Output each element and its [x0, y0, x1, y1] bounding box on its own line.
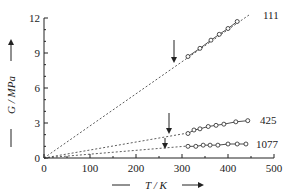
data-point — [235, 20, 239, 24]
data-point — [226, 27, 230, 31]
data-point — [216, 143, 220, 147]
data-point — [201, 143, 205, 147]
arrow-down-icon — [162, 138, 168, 149]
y-tick-label-9: 9 — [35, 47, 41, 59]
data-point — [198, 127, 202, 131]
x-tick-label-100: 100 — [82, 162, 99, 174]
arrow-right-icon — [198, 182, 204, 188]
series-label-425: 425 — [260, 114, 277, 126]
y-ticks — [44, 18, 48, 158]
data-point — [209, 38, 213, 42]
data-point — [244, 142, 248, 146]
y-tick-label-0: 0 — [35, 152, 41, 164]
data-point — [186, 55, 190, 59]
arrow-up-icon — [8, 39, 14, 45]
data-point — [192, 128, 196, 132]
x-ticks — [44, 154, 274, 158]
data-point — [217, 32, 221, 36]
series-425 — [186, 119, 250, 136]
series-1077 — [186, 142, 248, 148]
data-point — [214, 123, 218, 127]
y-tick-label-3: 3 — [35, 117, 41, 129]
chart: 12 9 6 3 0 0 100 200 300 400 500 T / K G… — [0, 0, 295, 193]
data-point — [234, 120, 238, 124]
arrow-down-icon — [171, 40, 177, 63]
arrow-down-icon — [166, 113, 172, 134]
data-point — [194, 144, 198, 148]
data-point — [186, 132, 190, 136]
data-point — [198, 46, 202, 50]
series-label-1077: 1077 — [256, 138, 279, 150]
data-point — [206, 125, 210, 129]
fit-line-1077 — [44, 146, 188, 158]
series-111 — [186, 20, 239, 59]
y-tick-label-12: 12 — [29, 12, 40, 24]
data-point — [226, 142, 230, 146]
x-tick-label-300: 300 — [174, 162, 191, 174]
data-point — [246, 119, 250, 123]
x-axis-title-text: T / K — [145, 179, 167, 191]
series-label-111: 111 — [263, 9, 279, 21]
transition-arrows — [162, 40, 177, 149]
data-point — [222, 122, 226, 126]
x-axis-title: T / K — [112, 179, 204, 191]
data-point — [235, 142, 239, 146]
x-tick-label-0: 0 — [41, 162, 47, 174]
x-tick-label-400: 400 — [220, 162, 237, 174]
y-axis-title: G / MPa — [5, 39, 17, 147]
x-tick-label-500: 500 — [266, 162, 283, 174]
y-axis-title-text: G / MPa — [5, 76, 17, 114]
y-tick-label-6: 6 — [35, 82, 41, 94]
axes — [44, 18, 274, 158]
data-point — [186, 144, 190, 148]
x-tick-label-200: 200 — [128, 162, 145, 174]
series-line — [188, 121, 248, 134]
data-point — [208, 143, 212, 147]
